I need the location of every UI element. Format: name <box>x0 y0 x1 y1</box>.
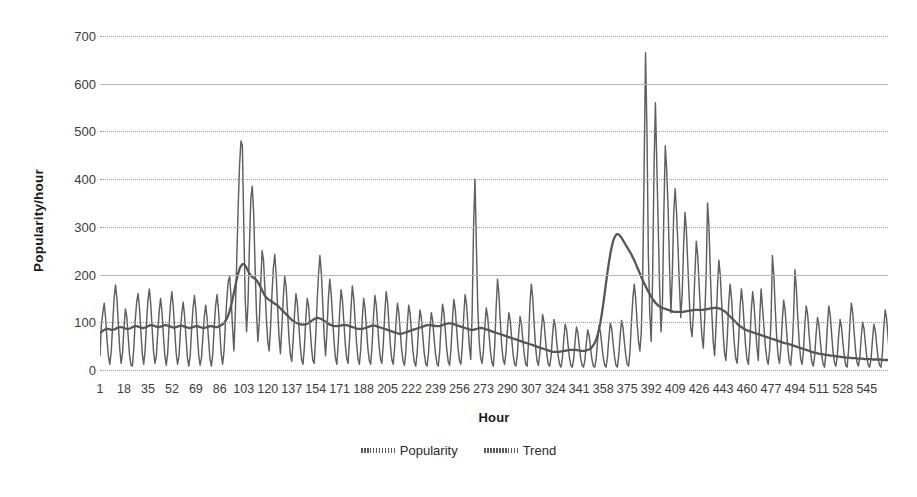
x-tick-label: 171 <box>329 381 350 397</box>
x-tick-label: 494 <box>785 381 806 397</box>
y-tick-label: 700 <box>58 30 96 43</box>
y-tick-label: 0 <box>58 364 96 377</box>
gridline-y-200 <box>100 275 888 276</box>
x-tick-label: 477 <box>761 381 782 397</box>
x-tick-label: 358 <box>593 381 614 397</box>
y-tick-label: 300 <box>58 220 96 233</box>
x-tick-label: 18 <box>117 381 131 397</box>
x-tick-label: 205 <box>377 381 398 397</box>
dotted-line-swatch-icon <box>361 448 395 453</box>
popularity-series-line <box>100 53 888 367</box>
x-tick-label: 52 <box>165 381 179 397</box>
x-tick-label: 443 <box>713 381 734 397</box>
gridline-y-600 <box>100 84 888 85</box>
x-tick-label: 392 <box>641 381 662 397</box>
x-axis-tick-labels: 1183552698610312013715417118820522223925… <box>100 381 888 401</box>
gridline-y-300 <box>100 227 888 228</box>
gridline-y-100 <box>100 322 888 323</box>
x-tick-label: 273 <box>473 381 494 397</box>
legend-label-popularity: Popularity <box>400 443 458 458</box>
x-tick-label: 103 <box>233 381 254 397</box>
y-tick-label: 500 <box>58 125 96 138</box>
dotted-line-swatch-icon <box>484 448 518 453</box>
popularity-per-hour-chart: Popularity/hour 0100200300400500600700 1… <box>0 0 917 497</box>
plot-area <box>100 36 888 370</box>
x-axis-title-container: Hour <box>100 408 888 426</box>
series-canvas <box>100 36 888 370</box>
x-axis-title: Hour <box>478 410 509 425</box>
x-tick-label: 222 <box>401 381 422 397</box>
x-tick-label: 324 <box>545 381 566 397</box>
y-tick-label: 200 <box>58 268 96 281</box>
x-tick-label: 256 <box>449 381 470 397</box>
x-tick-label: 460 <box>737 381 758 397</box>
legend-item-trend: Trend <box>484 443 556 458</box>
x-tick-label: 239 <box>425 381 446 397</box>
x-tick-label: 35 <box>141 381 155 397</box>
gridline-y-0 <box>100 370 888 371</box>
x-tick-label: 307 <box>521 381 542 397</box>
gridline-y-700 <box>100 36 888 37</box>
x-tick-label: 426 <box>689 381 710 397</box>
x-tick-label: 137 <box>281 381 302 397</box>
y-axis-title-container: Popularity/hour <box>26 120 50 320</box>
x-tick-label: 341 <box>569 381 590 397</box>
chart-legend: Popularity Trend <box>0 443 917 458</box>
gridline-y-400 <box>100 179 888 180</box>
x-tick-label: 69 <box>189 381 203 397</box>
y-tick-label: 400 <box>58 173 96 186</box>
x-tick-label: 1 <box>97 381 104 397</box>
x-tick-label: 545 <box>856 381 877 397</box>
gridline-y-500 <box>100 131 888 132</box>
x-tick-label: 188 <box>353 381 374 397</box>
y-axis-title: Popularity/hour <box>31 169 46 272</box>
x-tick-label: 528 <box>832 381 853 397</box>
x-tick-label: 511 <box>809 381 829 397</box>
y-tick-label: 600 <box>58 77 96 90</box>
x-tick-label: 86 <box>213 381 227 397</box>
y-axis-tick-labels: 0100200300400500600700 <box>58 28 96 380</box>
y-tick-label: 100 <box>58 316 96 329</box>
x-tick-label: 409 <box>665 381 686 397</box>
x-tick-label: 154 <box>305 381 326 397</box>
x-tick-label: 375 <box>617 381 638 397</box>
legend-item-popularity: Popularity <box>361 443 458 458</box>
x-tick-label: 120 <box>257 381 278 397</box>
x-tick-label: 290 <box>497 381 518 397</box>
legend-label-trend: Trend <box>523 443 556 458</box>
